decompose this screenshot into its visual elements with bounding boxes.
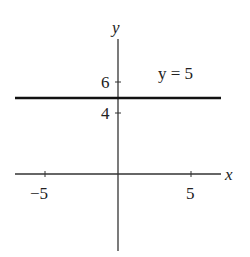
x-axis-label: x — [224, 165, 233, 184]
line-annotation: y = 5 — [158, 64, 193, 83]
tick-label-x-neg5: −5 — [30, 184, 48, 203]
tick-label-y-4: 4 — [101, 104, 110, 123]
tick-label-x-5: 5 — [186, 184, 195, 203]
y-axis-label: y — [110, 18, 120, 37]
chart: y x −5 5 6 4 y = 5 — [0, 0, 250, 257]
tick-label-y-6: 6 — [101, 73, 110, 92]
